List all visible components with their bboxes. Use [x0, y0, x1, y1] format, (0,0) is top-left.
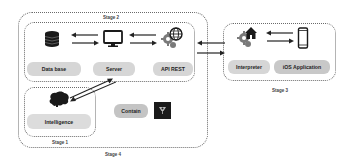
intelligence-pill: Intelligence [27, 114, 91, 129]
arrow-db-server [70, 32, 100, 46]
stage-3-label: Stage 3 [272, 88, 288, 93]
gear-home-icon [236, 26, 258, 48]
monitor-icon [102, 30, 124, 48]
arrow-interpreter-ios [265, 30, 295, 44]
stage-1-label: Stage 1 [52, 140, 68, 145]
smartphone-icon [297, 27, 309, 49]
interpreter-pill: Interpreter [228, 60, 270, 74]
contain-pill: Contain [114, 104, 148, 118]
ios-application-pill: iOS Application [274, 60, 330, 74]
database-pill: Data base [27, 62, 81, 76]
brain-icon [48, 91, 70, 107]
server-pill: Server [93, 62, 135, 76]
lamp-icon [154, 102, 171, 119]
arrow-api-interpreter [196, 40, 226, 56]
stage-2-label: Stage 2 [103, 15, 119, 20]
arrow-server-intelligence [66, 76, 116, 102]
arrow-server-api [128, 32, 158, 46]
gear-globe-icon [160, 27, 184, 49]
stage-4-label: Stage 4 [105, 152, 121, 157]
database-icon [43, 30, 61, 48]
api-rest-pill: API REST [153, 62, 193, 76]
